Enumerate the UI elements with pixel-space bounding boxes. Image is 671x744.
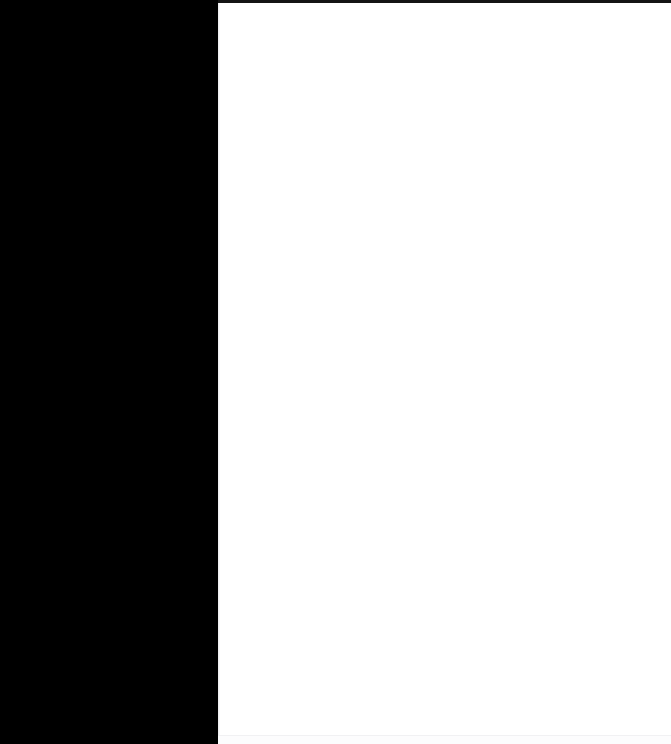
content-pane-bottom-strip — [218, 736, 671, 744]
content-pane-body — [218, 3, 671, 744]
content-pane[interactable] — [218, 3, 671, 744]
screenshot-root — [0, 0, 671, 744]
left-black-panel[interactable] — [0, 0, 218, 744]
